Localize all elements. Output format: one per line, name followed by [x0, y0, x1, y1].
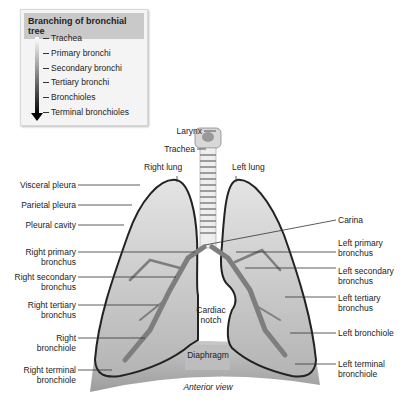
label-visceral-pleura: Visceral pleura — [0, 180, 76, 190]
left-lung-shape — [221, 180, 316, 377]
label-left-lung: Left lung — [232, 162, 265, 172]
label-right-bronchiole: Rightbronchiole — [0, 333, 76, 353]
legend-title: Branching of bronchial tree — [24, 13, 144, 39]
label-right-lung: Right lung — [144, 162, 182, 172]
arrowhead-icon — [31, 113, 43, 121]
label-left-bronchiole: Left bronchiole — [338, 328, 394, 338]
right-lung-shape — [95, 180, 198, 377]
label-left-tertiary-bronchus: Left tertiarybronchus — [338, 293, 381, 313]
legend-arrow-icon — [35, 37, 39, 115]
label-trachea: Trachea — [150, 144, 195, 154]
label-diaphragm: Diaphragm — [180, 350, 236, 360]
label-left-secondary-bronchus: Left secondarybronchus — [338, 266, 394, 286]
label-right-terminal-bronchiole: Right terminalbronchiole — [0, 365, 76, 385]
label-carina: Carina — [338, 215, 363, 225]
label-anterior-view: Anterior view — [170, 382, 246, 392]
legend-item-secondary: Secondary bronchi — [43, 63, 122, 73]
legend-box: Branching of bronchial tree Trachea Prim… — [20, 9, 148, 126]
label-right-secondary-bronchus: Right secondarybronchus — [0, 272, 76, 292]
trachea-shape — [200, 148, 216, 248]
label-left-primary-bronchus: Left primarybronchus — [338, 238, 383, 258]
legend-item-primary: Primary bronchi — [43, 48, 111, 58]
legend-item-terminal: Terminal bronchioles — [43, 107, 129, 117]
label-right-primary-bronchus: Right primarybronchus — [0, 247, 76, 267]
label-larynx: Larynx — [150, 126, 202, 136]
label-right-tertiary-bronchus: Right tertiarybronchus — [0, 300, 76, 320]
legend-item-tertiary: Tertiary bronchi — [43, 77, 109, 87]
label-cardiac-notch: Cardiacnotch — [196, 305, 226, 325]
label-left-terminal-bronchiole: Left terminalbronchiole — [338, 359, 385, 379]
label-pleural-cavity: Pleural cavity — [0, 220, 76, 230]
label-parietal-pleura: Parietal pleura — [0, 200, 76, 210]
legend-item-trachea: Trachea — [43, 33, 82, 43]
legend-item-bronchioles: Bronchioles — [43, 92, 95, 102]
